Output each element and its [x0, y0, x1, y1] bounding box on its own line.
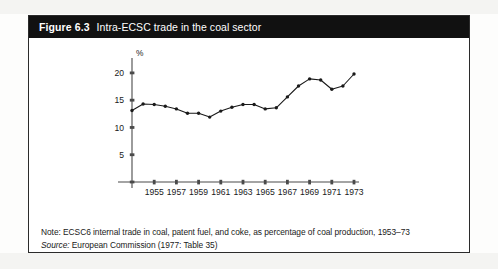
figure-number: Figure 6.3: [39, 21, 90, 33]
note-label: Note:: [41, 227, 61, 237]
chart-plot-area: 5101520 19551957195919611963196519671969…: [29, 38, 469, 208]
source-text: European Commission (1977: Table 35): [72, 240, 218, 250]
figure-notes: Note: ECSC6 internal trade in coal, pate…: [29, 226, 469, 252]
x-tick-label: 1955: [145, 187, 164, 197]
x-tick-label: 1959: [189, 187, 208, 197]
data-point: [130, 109, 133, 112]
data-point: [219, 109, 222, 112]
data-point: [308, 77, 311, 80]
x-tick-label: 1965: [256, 187, 275, 197]
data-point: [197, 112, 200, 115]
data-point: [275, 106, 278, 109]
data-point: [208, 115, 211, 118]
note-text: ECSC6 internal trade in coal, patent fue…: [63, 227, 410, 237]
data-point: [264, 107, 267, 110]
data-point: [341, 84, 344, 87]
y-axis-tick-labels: 5101520: [114, 68, 124, 160]
y-tick-label: 20: [114, 68, 124, 78]
x-tick-label: 1973: [344, 187, 363, 197]
y-tick-label: 10: [114, 123, 124, 133]
y-tick-label: 5: [119, 150, 124, 160]
data-point: [241, 103, 244, 106]
x-tick-label: 1967: [278, 187, 297, 197]
data-point: [297, 84, 300, 87]
x-axis-tick-labels: 1955195719591961196319651967196919711973: [145, 187, 364, 197]
figure-panel: Figure 6.3 Intra-ECSC trade in the coal …: [28, 15, 470, 253]
source-line: Source: European Commission (1977: Table…: [41, 239, 469, 252]
data-point: [286, 95, 289, 98]
data-point: [330, 88, 333, 91]
data-point: [352, 72, 355, 75]
data-point: [230, 106, 233, 109]
x-tick-label: 1969: [300, 187, 319, 197]
x-tick-label: 1971: [322, 187, 341, 197]
data-point: [319, 78, 322, 81]
y-axis-title: %: [136, 48, 144, 58]
data-point: [175, 107, 178, 110]
data-series-markers: [130, 72, 355, 118]
data-point: [186, 112, 189, 115]
figure-title: Intra-ECSC trade in the coal sector: [97, 21, 262, 33]
source-label: Source:: [41, 240, 70, 250]
line-chart: 5101520 19551957195919611963196519671969…: [29, 38, 469, 208]
chart-tick-marks: [130, 72, 356, 185]
y-tick-label: 15: [114, 95, 124, 105]
data-point: [252, 103, 255, 106]
chart-axes: [118, 58, 359, 188]
data-point: [141, 102, 144, 105]
note-line: Note: ECSC6 internal trade in coal, pate…: [41, 226, 469, 239]
figure-header-bar: Figure 6.3 Intra-ECSC trade in the coal …: [29, 16, 469, 38]
x-tick-label: 1963: [233, 187, 252, 197]
data-point: [153, 103, 156, 106]
data-point: [164, 104, 167, 107]
x-tick-label: 1957: [167, 187, 186, 197]
x-tick-label: 1961: [211, 187, 230, 197]
